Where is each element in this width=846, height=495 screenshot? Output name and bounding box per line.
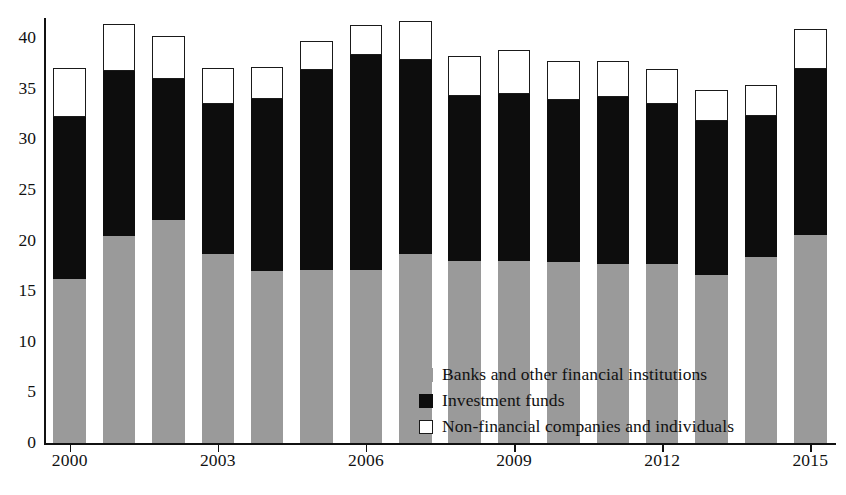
legend-item-investment-funds: Investment funds: [419, 388, 734, 414]
bar-segment-non-financial: [399, 21, 432, 59]
chart-legend: Banks and other financial institutions I…: [415, 358, 740, 444]
bar-segment-banks: [745, 257, 778, 443]
bar-segment-non-financial: [251, 67, 284, 99]
bar-2014: [745, 18, 778, 443]
bar-segment-non-financial: [53, 68, 86, 118]
bar-segment-non-financial: [646, 69, 679, 104]
x-axis-tick-label: 2009: [496, 452, 532, 470]
y-axis-tick-label: 20: [0, 232, 36, 250]
x-axis-tick-mark: [662, 445, 664, 452]
y-axis-tick-label: 5: [0, 384, 36, 402]
bar-segment-investment-funds: [103, 71, 136, 236]
legend-label-non-financial: Non-financial companies and individuals: [442, 418, 734, 436]
x-axis-tick-label: 2012: [644, 452, 680, 470]
x-axis-tick-mark: [366, 445, 368, 452]
bar-2001: [103, 18, 136, 443]
y-axis-tick-label: 40: [0, 29, 36, 47]
bar-2003: [202, 18, 235, 443]
legend-label-banks: Banks and other financial institutions: [442, 366, 707, 384]
bar-2015: [794, 18, 827, 443]
legend-swatch-non-financial-icon: [419, 420, 433, 434]
bar-segment-investment-funds: [695, 121, 728, 275]
bar-segment-non-financial: [597, 61, 630, 97]
x-axis-tick-label: 2015: [792, 452, 828, 470]
y-axis-tick-label: 10: [0, 333, 36, 351]
y-axis-tick-label: 25: [0, 181, 36, 199]
y-axis-tick-label: 35: [0, 80, 36, 98]
bar-segment-banks: [152, 220, 185, 443]
bar-segment-non-financial: [547, 61, 580, 100]
legend-item-non-financial: Non-financial companies and individuals: [419, 414, 734, 440]
bar-segment-banks: [202, 254, 235, 443]
bar-segment-investment-funds: [597, 97, 630, 264]
bar-segment-investment-funds: [498, 94, 531, 261]
bar-segment-investment-funds: [399, 60, 432, 254]
bar-segment-non-financial: [794, 29, 827, 68]
legend-swatch-banks-icon: [419, 368, 433, 382]
bar-segment-banks: [103, 236, 136, 443]
x-axis-tick-label: 2000: [52, 452, 88, 470]
bar-segment-banks: [794, 235, 827, 443]
x-axis-tick-label: 2006: [348, 452, 384, 470]
bar-2002: [152, 18, 185, 443]
bar-segment-investment-funds: [300, 70, 333, 270]
bar-segment-banks: [251, 271, 284, 443]
bar-segment-non-financial: [103, 24, 136, 71]
bar-segment-banks: [350, 270, 383, 443]
bar-segment-investment-funds: [448, 96, 481, 261]
bar-segment-investment-funds: [794, 69, 827, 235]
x-axis-tick-mark: [70, 445, 72, 452]
bar-segment-non-financial: [202, 68, 235, 104]
x-axis-tick-mark: [514, 445, 516, 452]
bar-2000: [53, 18, 86, 443]
bar-segment-investment-funds: [152, 79, 185, 221]
bar-segment-non-financial: [448, 56, 481, 95]
bar-segment-investment-funds: [251, 99, 284, 271]
bar-segment-non-financial: [745, 85, 778, 116]
bar-segment-non-financial: [350, 25, 383, 55]
bar-segment-investment-funds: [745, 116, 778, 257]
bar-segment-non-financial: [695, 90, 728, 121]
bar-segment-non-financial: [152, 36, 185, 79]
legend-swatch-investment-funds-icon: [419, 394, 433, 408]
y-axis-tick-labels: 0510152025303540: [0, 0, 40, 495]
bar-segment-investment-funds: [350, 55, 383, 270]
y-axis-tick-label: 15: [0, 282, 36, 300]
x-axis-tick-mark: [218, 445, 220, 452]
legend-label-investment-funds: Investment funds: [442, 392, 565, 410]
y-axis-tick-label: 30: [0, 131, 36, 149]
bar-segment-investment-funds: [646, 104, 679, 264]
x-axis-tick-mark: [810, 445, 812, 452]
legend-item-banks: Banks and other financial institutions: [419, 362, 734, 388]
stacked-bar-chart: 0510152025303540 20002003200620092012201…: [0, 0, 846, 495]
bar-2005: [300, 18, 333, 443]
bar-segment-investment-funds: [202, 104, 235, 254]
bar-segment-non-financial: [498, 50, 531, 94]
x-axis-tick-label: 2003: [200, 452, 236, 470]
bar-2004: [251, 18, 284, 443]
bar-segment-banks: [300, 270, 333, 443]
bar-segment-investment-funds: [547, 100, 580, 262]
bar-segment-banks: [53, 279, 86, 443]
bar-segment-non-financial: [300, 41, 333, 69]
y-axis-tick-label: 0: [0, 434, 36, 452]
bar-segment-investment-funds: [53, 117, 86, 279]
bar-2006: [350, 18, 383, 443]
